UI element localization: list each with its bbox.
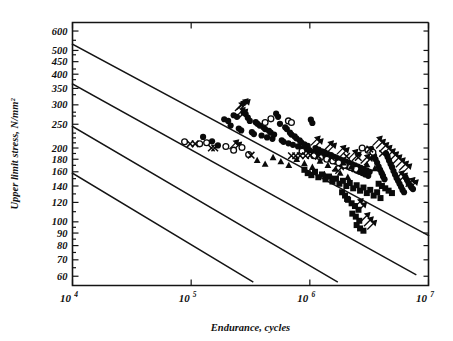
data-point-filled-circle — [271, 131, 277, 137]
data-point-filled-triangle — [285, 162, 292, 168]
design-line-1 — [73, 44, 429, 235]
y-tick-label: 60 — [57, 271, 68, 282]
x-tick-exponent: 7 — [430, 290, 434, 299]
x-tick-exponent: 4 — [73, 290, 78, 299]
data-point-filled-square — [339, 189, 345, 195]
y-tick-label: 80 — [57, 240, 68, 251]
design-line-3 — [73, 126, 338, 281]
design-line-4 — [73, 173, 253, 282]
data-point-filled-circle — [228, 122, 234, 128]
y-tick-label: 180 — [52, 154, 69, 165]
data-point-filled-square — [347, 180, 353, 186]
data-point-filled-square — [374, 189, 380, 195]
y-tick-label: 90 — [57, 228, 68, 239]
data-point-filled-circle — [401, 189, 407, 195]
data-point-filled-circle — [251, 131, 257, 137]
y-tick-label: 350 — [51, 83, 69, 94]
y-tick-label: 250 — [51, 119, 69, 130]
data-point-filled-circle — [200, 134, 206, 140]
data-point-filled-triangle — [262, 160, 269, 166]
y-tick-label: 200 — [51, 143, 69, 154]
data-point-filled-square — [377, 195, 383, 201]
data-point-filled-triangle — [332, 165, 339, 171]
data-point-open-circle — [359, 145, 365, 151]
data-point-filled-circle — [275, 114, 281, 120]
data-point-open-circle — [182, 139, 188, 145]
data-point-filled-circle — [238, 127, 244, 133]
y-tick-label: 70 — [57, 254, 68, 265]
fatigue-sn-chart-figure: 6005004504003503002502001801601401201009… — [0, 0, 453, 341]
data-point-open-circle — [262, 120, 268, 126]
data-point-open-circle — [239, 145, 245, 151]
x-tick-label: 104 — [60, 290, 78, 304]
x-tick-mantissa: 10 — [297, 292, 309, 304]
x-axis-title: Endurance, cycles — [210, 322, 290, 333]
data-point-filled-circle — [277, 121, 283, 127]
data-point-filled-circle — [381, 176, 387, 182]
data-point-filled-triangle — [270, 154, 277, 160]
data-point-filled-square — [354, 182, 360, 188]
y-tick-label: 160 — [52, 166, 69, 177]
data-point-filled-circle — [258, 132, 264, 138]
y-tick-label: 100 — [52, 216, 69, 227]
y-tick-label: 120 — [52, 197, 69, 208]
data-point-filled-square — [344, 196, 350, 202]
data-point-open-circle — [231, 147, 237, 153]
data-point-open-circle — [289, 120, 295, 126]
data-point-filled-circle — [247, 118, 253, 124]
data-point-filled-square — [367, 187, 373, 193]
y-tick-label: 400 — [51, 69, 69, 80]
x-tick-mantissa: 10 — [60, 292, 72, 304]
data-point-filled-square — [355, 207, 361, 213]
data-point-filled-triangle — [277, 158, 284, 164]
data-point-filled-square — [360, 185, 366, 191]
data-point-filled-square — [389, 190, 395, 196]
data-point-open-circle — [268, 116, 274, 122]
x-tick-exponent: 5 — [193, 290, 197, 299]
x-tick-label: 107 — [416, 290, 434, 304]
data-point-filled-circle — [309, 120, 315, 126]
x-tick-label: 105 — [179, 290, 197, 304]
y-tick-label: 450 — [51, 56, 69, 67]
x-tick-label: 106 — [297, 290, 315, 304]
y-tick-label: 140 — [52, 181, 69, 192]
data-point-filled-triangle — [309, 164, 316, 170]
data-points-group — [182, 109, 416, 233]
x-tick-mantissa: 10 — [179, 292, 191, 304]
y-axis-title: Upper limit stress, N/mm² — [9, 98, 20, 210]
y-tick-label: 300 — [51, 99, 69, 110]
data-point-open-circle — [223, 144, 229, 150]
data-point-filled-square — [340, 178, 346, 184]
data-point-filled-triangle — [344, 174, 351, 180]
data-point-filled-triangle — [301, 160, 308, 166]
y-tick-label: 600 — [52, 26, 69, 37]
chart-canvas: 6005004504003503002502001801601401201009… — [0, 0, 453, 341]
data-point-filled-circle — [234, 114, 240, 120]
data-point-filled-triangle — [254, 157, 261, 163]
data-point-filled-square — [360, 228, 366, 234]
x-axis-tick-labels: 104105106107 — [60, 290, 434, 304]
data-point-filled-circle — [367, 169, 373, 175]
y-tick-label: 500 — [52, 45, 69, 56]
data-point-filled-circle — [410, 186, 416, 192]
x-tick-mantissa: 10 — [416, 292, 428, 304]
y-axis-tick-labels: 6005004504003503002502001801601401201009… — [51, 26, 69, 282]
x-tick-exponent: 6 — [311, 290, 315, 299]
